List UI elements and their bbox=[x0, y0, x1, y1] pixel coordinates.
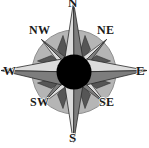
compass-label-southwest: SW bbox=[30, 96, 49, 108]
compass-label-south: S bbox=[69, 131, 77, 144]
compass-label-northwest: NW bbox=[29, 24, 50, 36]
compass-label-west: W bbox=[3, 64, 16, 77]
compass-center-hub bbox=[57, 55, 92, 90]
compass-label-north: N bbox=[68, 0, 78, 9]
compass-label-east: E bbox=[136, 64, 145, 77]
compass-label-southeast: SE bbox=[99, 96, 114, 108]
compass-label-northeast: NE bbox=[97, 24, 114, 36]
compass-rose-graphic bbox=[0, 0, 149, 148]
compass-rose-figure: N NE E SE S SW W NW bbox=[0, 0, 149, 148]
